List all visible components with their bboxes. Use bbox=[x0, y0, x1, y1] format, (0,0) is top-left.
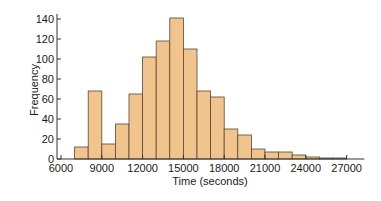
x-tick-label: 9000 bbox=[90, 162, 114, 174]
x-tick-label: 6000 bbox=[49, 162, 73, 174]
x-tick-label: 27000 bbox=[331, 162, 362, 174]
histogram-bar bbox=[279, 152, 293, 159]
x-axis-label: Time (seconds) bbox=[172, 175, 247, 187]
x-tick-label: 24000 bbox=[291, 162, 322, 174]
histogram-bar bbox=[156, 41, 170, 159]
histogram-bars bbox=[75, 18, 347, 159]
histogram-bar bbox=[75, 147, 89, 159]
y-tick-label: 60 bbox=[42, 93, 54, 105]
x-tick-label: 12000 bbox=[127, 162, 158, 174]
histogram-chart: 020406080100120140 600090001200015000180… bbox=[0, 0, 381, 201]
x-tick-label: 18000 bbox=[209, 162, 240, 174]
histogram-bar bbox=[183, 49, 197, 159]
y-tick-label: 40 bbox=[42, 113, 54, 125]
x-tick-label: 21000 bbox=[250, 162, 281, 174]
x-tick-label: 15000 bbox=[168, 162, 199, 174]
y-tick-label: 80 bbox=[42, 73, 54, 85]
y-axis-label: Frequency bbox=[28, 64, 40, 116]
y-tick-label: 140 bbox=[36, 13, 54, 25]
histogram-bar bbox=[143, 57, 157, 159]
y-tick-label: 100 bbox=[36, 53, 54, 65]
histogram-bar bbox=[211, 97, 225, 159]
histogram-bar bbox=[170, 18, 184, 159]
histogram-bar bbox=[238, 135, 252, 159]
histogram-bar bbox=[88, 91, 102, 159]
y-tick-label: 120 bbox=[36, 33, 54, 45]
histogram-bar bbox=[251, 149, 265, 159]
histogram-bar bbox=[129, 94, 143, 159]
y-tick-label: 20 bbox=[42, 133, 54, 145]
histogram-bar bbox=[224, 129, 238, 159]
histogram-bar bbox=[265, 152, 279, 159]
histogram-bar bbox=[115, 124, 129, 159]
histogram-bar bbox=[197, 91, 211, 159]
histogram-bar bbox=[102, 144, 116, 159]
histogram-bar bbox=[292, 155, 306, 159]
